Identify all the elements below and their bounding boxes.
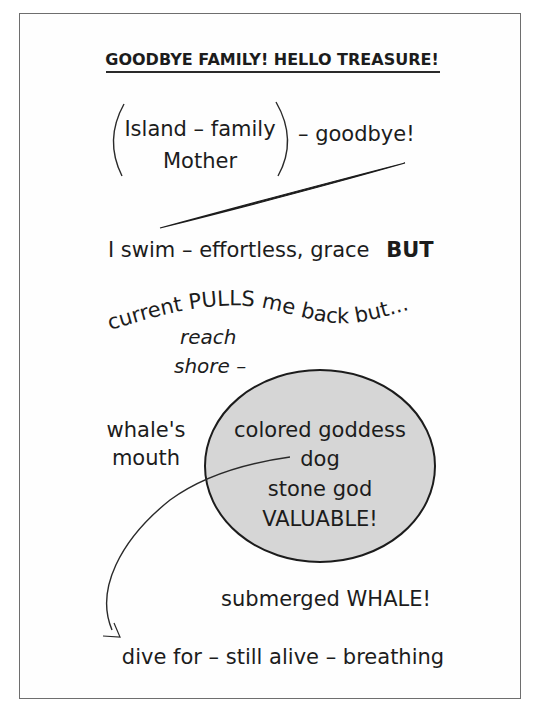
colored-goddess-text: colored goddess [234,418,406,442]
swim-line: I swim – effortless, grace BUT [108,238,434,262]
but-emphasis: BUT [386,238,434,262]
swim-text: I swim – effortless, grace [108,238,370,262]
current-line: current PULLS me back but... [104,286,410,334]
submerged-whale-text: submerged WHALE! [221,587,431,611]
dog-text: dog [300,447,340,471]
mouth-text: mouth [112,446,180,470]
goodbye-text: – goodbye! [298,122,415,146]
mother-text: Mother [163,149,237,173]
island-family-text: Island – family [124,117,275,141]
valuable-text: VALUABLE! [262,507,378,531]
notes-canvas: GOODBYE FAMILY! HELLO TREASURE! Island –… [0,0,540,721]
current-line-text: current PULLS me back but... [104,286,410,334]
left-parenthesis-icon [113,104,124,176]
page-title: GOODBYE FAMILY! HELLO TREASURE! [105,50,438,69]
shore-text: shore – [174,354,246,378]
reach-text: reach [180,325,236,349]
whales-text: whale's [107,418,186,442]
right-parenthesis-icon [276,102,288,176]
stone-god-text: stone god [268,477,372,501]
dive-line-text: dive for – still alive – breathing [122,645,444,669]
